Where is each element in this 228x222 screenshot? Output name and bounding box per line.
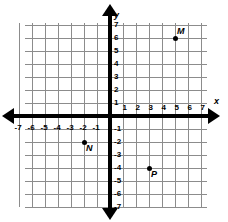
x-tick-label: -4 [54, 124, 61, 132]
y-tick-label: -7 [114, 203, 121, 211]
point-marker [173, 36, 178, 41]
point-label: N [86, 144, 93, 153]
x-tick-label: -1 [93, 124, 100, 132]
coordinate-plane: x y -7-6-5-4-3-2-11234567 7654321-1-2-3-… [0, 0, 228, 222]
y-tick-label: 1 [114, 99, 118, 107]
x-tick-label: 1 [123, 104, 127, 112]
x-axis-label: x [214, 97, 219, 106]
x-tick-label: -5 [41, 124, 48, 132]
x-tick-label: 2 [136, 104, 140, 112]
x-axis-positive-arrow-icon [208, 108, 220, 124]
x-axis [12, 114, 212, 118]
y-tick-label: 5 [114, 47, 118, 55]
y-axis-label: y [114, 11, 119, 20]
x-tick-label: -2 [80, 124, 87, 132]
x-tick-label: 7 [201, 104, 205, 112]
y-tick-label: 2 [114, 86, 118, 94]
x-tick-label: -3 [67, 124, 74, 132]
x-tick-label: 6 [188, 104, 192, 112]
y-tick-label: 6 [114, 34, 118, 42]
y-tick-label: -2 [114, 138, 121, 146]
y-tick-label: -6 [114, 190, 121, 198]
point-label: M [177, 27, 185, 36]
x-tick-label: -7 [15, 124, 22, 132]
x-tick-label: 4 [162, 104, 166, 112]
x-tick-label: 3 [149, 104, 153, 112]
y-axis [108, 14, 112, 210]
point-label: P [151, 170, 157, 179]
y-tick-label: 3 [114, 73, 118, 81]
x-tick-label: 5 [175, 104, 179, 112]
y-tick-label: -4 [114, 164, 121, 172]
y-tick-label: -3 [114, 151, 121, 159]
y-tick-label: 7 [114, 21, 118, 29]
y-tick-label: 4 [114, 60, 118, 68]
y-tick-label: -5 [114, 177, 121, 185]
x-axis-negative-arrow-icon [2, 108, 14, 124]
y-tick-label: -1 [114, 125, 121, 133]
x-tick-label: -6 [28, 124, 35, 132]
